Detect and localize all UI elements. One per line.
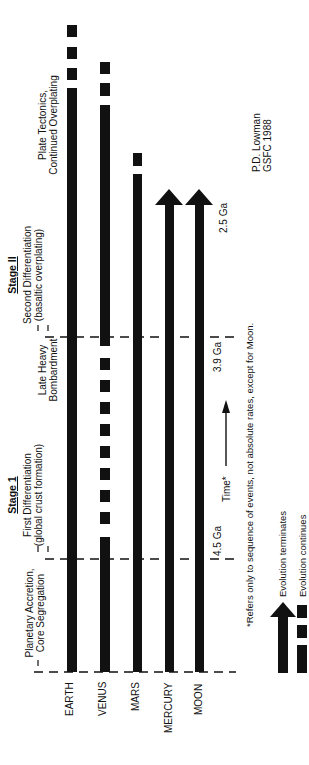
legend-dashed-bar-icon	[297, 605, 307, 673]
phase-line-2: Continued Overplating	[48, 65, 59, 185]
stage-2-title: Stage II	[7, 215, 18, 335]
planet-label-mars: MARS	[130, 682, 141, 711]
phase-label-second-differentiation-detail: (basaltic overplating)	[33, 215, 44, 335]
credit: P.D. Lowman GSFC 1988	[251, 113, 273, 172]
mars-bar	[133, 153, 142, 672]
earth-bar	[67, 25, 77, 672]
phase-label-planetary-accretion: Planetary Accretion, Core Segregation	[24, 558, 46, 668]
time-arrow-icon	[222, 400, 230, 466]
credit-org-year: GSFC 1988	[262, 113, 273, 172]
phase-line-2: Core Segregation	[35, 558, 46, 668]
phase-label-late-heavy-bombardment: Late Heavy Bombardment	[37, 320, 59, 420]
phase-line-2: Bombardment	[48, 320, 59, 420]
planet-label-venus: VENUS	[97, 682, 108, 716]
stage-2-block: Stage II Second Differentiation (basalti…	[7, 215, 44, 335]
legend-label-terminates: Evolution terminates	[277, 511, 288, 597]
phase-line-1: Planetary Accretion,	[24, 558, 35, 668]
phase-line-1: Plate Tectonics,	[37, 65, 48, 185]
mercury-arrow	[155, 189, 183, 672]
phase-label-first-differentiation-detail: (global crust formation)	[33, 435, 44, 555]
planet-label-moon: MOON	[193, 684, 204, 715]
phase-label-second-differentiation: Second Differentiation	[22, 215, 33, 335]
legend-arrow-icon	[270, 602, 296, 673]
legend-label-continues: Evolution continues	[297, 515, 308, 597]
phase-line-1: Late Heavy	[37, 320, 48, 420]
time-axis-label: Time*	[221, 476, 232, 502]
credit-author: P.D. Lowman	[251, 113, 262, 172]
time-marker-2-5ga: 2.5 Ga	[218, 203, 229, 233]
planet-label-earth: EARTH	[64, 682, 75, 716]
footnote: *Refers only to sequence of events, not …	[244, 323, 255, 627]
phase-label-plate-tectonics: Plate Tectonics, Continued Overplating	[37, 65, 59, 185]
planet-label-mercury: MERCURY	[163, 683, 174, 733]
venus-bar	[100, 62, 110, 672]
time-marker-4-5ga: 4.5 Ga	[212, 526, 223, 556]
stage-1-title: Stage 1	[7, 435, 18, 555]
time-marker-3-9ga: 3.9 Ga	[212, 342, 223, 372]
moon-arrow	[185, 189, 213, 672]
phase-label-first-differentiation: First Differentiation	[22, 435, 33, 555]
stage-1-block: Stage 1 First Differentiation (global cr…	[7, 435, 44, 555]
